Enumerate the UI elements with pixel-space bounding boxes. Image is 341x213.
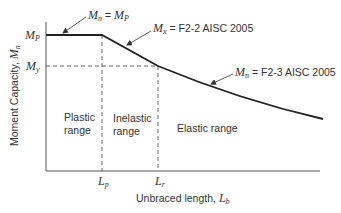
- svg-text:Mn = MP: Mn = MP: [87, 8, 129, 23]
- x-axis-title: Unbraced length,: [136, 192, 219, 204]
- plastic-range-label-2: range: [64, 124, 91, 136]
- svg-text:Lr: Lr: [154, 174, 166, 189]
- svg-text:MP: MP: [24, 28, 40, 43]
- plastic-range-label-1: Plastic: [64, 111, 95, 123]
- svg-text:Unbraced length, Lb: Unbraced length, Lb: [136, 191, 230, 206]
- annotation-arrow-3: [211, 74, 233, 84]
- svg-text:My: My: [25, 59, 40, 74]
- svg-text:Moment Capacity, Mn: Moment Capacity, Mn: [7, 45, 22, 146]
- y-axis-title: Moment Capacity,: [8, 59, 20, 146]
- svg-text:Mx = F2-2 AISC 2005: Mx = F2-2 AISC 2005: [152, 21, 253, 36]
- moment-capacity-diagram: MP My Lp Lr Unbraced length, Lb Moment C…: [0, 0, 341, 213]
- svg-text:Lp: Lp: [97, 174, 109, 189]
- elastic-range-label: Elastic range: [177, 122, 238, 134]
- annotation-arrow-2: [127, 31, 151, 45]
- svg-text:Mn = F2-3 AISC 2005: Mn = F2-3 AISC 2005: [234, 65, 336, 80]
- annotation-arrow-1: [63, 17, 86, 33]
- inelastic-range-label-2: range: [113, 125, 140, 137]
- inelastic-range-label-1: Inelastic: [113, 112, 152, 124]
